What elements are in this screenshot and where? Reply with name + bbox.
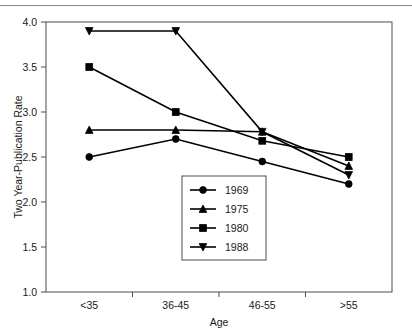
marker-square — [172, 109, 179, 116]
marker-square — [86, 64, 93, 71]
y-axis-tick-labels: 1.01.52.02.53.03.54.0 — [22, 16, 37, 298]
x-axis-ticks — [133, 292, 306, 297]
x-axis-tick-labels: <3536-4546-55>55 — [80, 299, 357, 311]
marker-triangle-down — [345, 172, 353, 179]
y-axis-ticks — [41, 22, 46, 292]
x-tick-label: 36-45 — [162, 299, 189, 311]
legend-entry-label: 1980 — [225, 222, 249, 234]
y-tick-label: 1.5 — [22, 241, 37, 253]
series-layer — [85, 28, 352, 188]
series-1980 — [86, 64, 352, 161]
marker-circle — [200, 187, 207, 194]
marker-circle — [259, 158, 266, 165]
marker-square — [200, 225, 207, 232]
series-1975 — [85, 126, 352, 169]
chart-legend: 1969197519801988 — [182, 176, 266, 260]
x-tick-label: >55 — [340, 299, 358, 311]
series-line — [89, 130, 349, 166]
y-tick-label: 2.5 — [22, 151, 37, 163]
marker-square — [345, 154, 352, 161]
legend-entry-label: 1969 — [225, 184, 249, 196]
legend-entry-label: 1988 — [225, 241, 249, 253]
line-chart: 1.01.52.02.53.03.54.0 <3536-4546-55>55 T… — [0, 0, 412, 336]
marker-square — [259, 137, 266, 144]
marker-circle — [86, 154, 93, 161]
marker-circle — [345, 181, 352, 188]
x-axis-title: Age — [210, 316, 229, 328]
x-tick-label: 46-55 — [249, 299, 276, 311]
series-line — [89, 31, 349, 175]
y-tick-label: 1.0 — [22, 286, 37, 298]
x-tick-label: <35 — [80, 299, 98, 311]
y-tick-label: 3.5 — [22, 61, 37, 73]
marker-circle — [172, 136, 179, 143]
y-axis-title: Two Year-Publication Rate — [12, 95, 24, 218]
series-1988 — [85, 28, 352, 179]
y-tick-label: 2.0 — [22, 196, 37, 208]
chart-figure: 1.01.52.02.53.03.54.0 <3536-4546-55>55 T… — [0, 0, 412, 336]
legend-entry-label: 1975 — [225, 203, 249, 215]
y-tick-label: 3.0 — [22, 106, 37, 118]
y-tick-label: 4.0 — [22, 16, 37, 28]
